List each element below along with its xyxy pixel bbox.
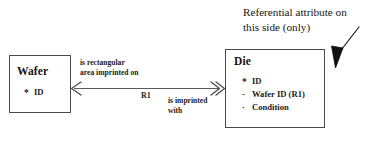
relationship-phrase-forward: is rectangular area imprinted on: [80, 58, 139, 77]
attribute-row: *ID: [242, 75, 305, 88]
relationship-phrase-forward-line2: area imprinted on: [80, 68, 139, 78]
relationship-id-label: R1: [141, 91, 151, 101]
attribute-list-wafer: *ID: [24, 86, 44, 99]
er-diagram-canvas: Wafer *ID Die *ID -Wafer ID (R1) ·Condit…: [0, 0, 380, 164]
annotation-line1: Referential attribute on: [243, 5, 347, 20]
attribute-row: -Wafer ID (R1): [242, 88, 305, 101]
attribute-marker-identifier-icon: *: [242, 76, 252, 89]
attribute-list-die: *ID -Wafer ID (R1) ·Condition: [242, 75, 305, 114]
relationship-phrase-reverse: is imprinted with: [168, 96, 207, 115]
attribute-label: Wafer ID (R1): [252, 89, 305, 99]
attribute-marker-referential-icon: -: [242, 88, 252, 101]
relationship-line[interactable]: [74, 88, 220, 89]
entity-box-wafer[interactable]: Wafer *ID: [9, 55, 71, 113]
entity-title-die: Die: [234, 55, 251, 67]
callout-arrow-icon: [326, 24, 366, 72]
single-arrowhead-icon: [70, 81, 82, 96]
entity-box-die[interactable]: Die *ID -Wafer ID (R1) ·Condition: [225, 49, 325, 128]
entity-title-wafer: Wafer: [17, 65, 48, 77]
attribute-label: ID: [252, 76, 262, 86]
double-arrowhead-icon: [210, 81, 226, 96]
attribute-marker-plain-icon: ·: [242, 101, 252, 114]
relationship-phrase-forward-line1: is rectangular: [80, 58, 139, 68]
attribute-row: *ID: [24, 86, 44, 99]
attribute-row: ·Condition: [242, 101, 305, 114]
attribute-marker-identifier-icon: *: [24, 87, 34, 100]
relationship-phrase-reverse-line2: with: [168, 106, 207, 116]
attribute-label: Condition: [252, 102, 289, 112]
relationship-phrase-reverse-line1: is imprinted: [168, 96, 207, 106]
attribute-label: ID: [34, 87, 44, 97]
